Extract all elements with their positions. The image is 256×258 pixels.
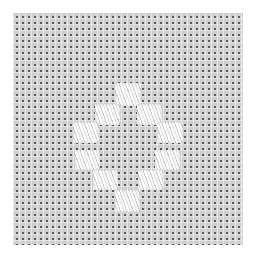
stitch-block-row3-right [157,122,183,143]
stitch-block-row4-left [75,150,100,170]
stitch-block-top [115,83,141,106]
stitch-block-row3-left [73,122,99,143]
stitch-block-row5-right [138,170,163,190]
stitch-block-row5-left [93,170,118,190]
stitch-block-bottom [115,190,140,212]
stitch-block-row4-right [155,150,180,170]
